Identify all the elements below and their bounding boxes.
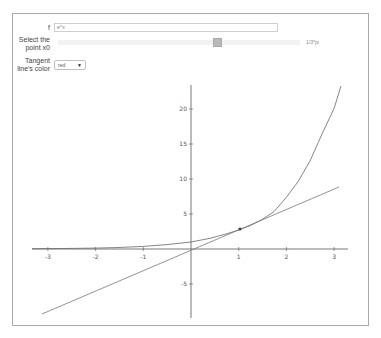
plot: -3 -2 -1 1 2 3 -5 5 10 15 20	[0, 0, 381, 338]
y-tick-labels: -5 5 10 15 20	[179, 105, 187, 287]
x-tick-label: -3	[45, 253, 51, 260]
tangent-point	[238, 227, 241, 230]
x-tick-label: 3	[332, 253, 336, 260]
x-tick-label: 2	[284, 253, 288, 260]
y-tick-label: 5	[183, 210, 187, 217]
x-tick-label: -2	[93, 253, 99, 260]
y-tick-label: 15	[179, 140, 187, 147]
y-tick-label: 20	[179, 105, 187, 112]
y-tick-label: 10	[179, 175, 187, 182]
tangent-line	[42, 187, 339, 314]
x-tick-label: 1	[237, 253, 241, 260]
x-tick-label: -1	[140, 253, 146, 260]
x-tick-labels: -3 -2 -1 1 2 3	[45, 253, 336, 260]
y-tick-label: -5	[181, 280, 187, 287]
